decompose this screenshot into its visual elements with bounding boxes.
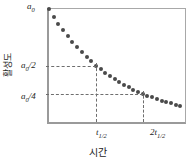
data-point	[178, 104, 182, 108]
data-point	[61, 28, 65, 32]
y-tick-label-a0: a0	[27, 1, 35, 13]
guide-line-horizontal	[46, 66, 96, 67]
data-point	[80, 50, 84, 54]
data-point	[66, 34, 70, 38]
data-point	[89, 59, 93, 63]
data-point	[160, 99, 164, 103]
data-point	[122, 83, 126, 87]
plot-area	[47, 8, 186, 124]
data-point	[145, 94, 149, 98]
data-point	[131, 88, 135, 92]
data-point	[85, 55, 89, 59]
data-point	[47, 7, 51, 11]
guide-line-horizontal	[46, 94, 143, 95]
data-point	[99, 67, 103, 71]
data-point	[70, 40, 74, 44]
y-tick-a0-sub: 0	[32, 6, 35, 13]
data-point	[155, 97, 159, 101]
guide-line-vertical	[96, 63, 97, 123]
x-tick-label-two-t-half: 2t1/2	[150, 127, 165, 139]
data-point	[127, 85, 131, 89]
x-axis-title: 시간	[0, 144, 195, 159]
y-tick-a0-quarter-frac: /4	[29, 91, 36, 101]
data-point	[174, 103, 178, 107]
data-point	[169, 101, 173, 105]
decay-curve-figure: a0 a0/2 a0/4 t1/2 2t1/2 활성도 시간	[0, 0, 195, 165]
x-tick-two-t-half-sub: 1/2	[157, 132, 165, 139]
data-point	[52, 15, 56, 19]
data-point	[103, 71, 107, 75]
data-point	[113, 77, 117, 81]
x-tick-t-half-sub: 1/2	[99, 132, 107, 139]
y-tick-a0-half-frac: /2	[29, 60, 36, 70]
y-axis-title: 활성도	[1, 45, 14, 85]
y-tick-label-a0-half: a0/2	[21, 60, 36, 72]
data-point	[117, 80, 121, 84]
data-point	[150, 95, 154, 99]
y-tick-label-a0-quarter: a0/4	[21, 91, 36, 103]
data-point	[164, 100, 168, 104]
data-point	[75, 45, 79, 49]
data-point	[108, 74, 112, 78]
guide-line-vertical	[143, 91, 144, 122]
x-tick-label-t-half: t1/2	[96, 127, 107, 139]
data-point	[56, 22, 60, 26]
